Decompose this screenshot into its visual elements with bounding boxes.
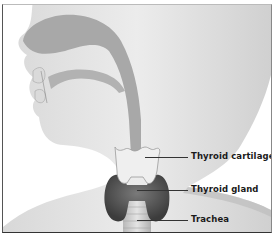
label-thyroid-cartilage: Thyroid cartilage: [191, 151, 272, 161]
label-trachea: Trachea: [191, 214, 229, 224]
leader-thyroid-cartilage: [145, 157, 188, 158]
anatomy-illustration: [3, 5, 271, 232]
label-thyroid-gland: Thyroid gland: [191, 184, 259, 194]
diagram-frame: Thyroid cartilage Thyroid gland Trachea: [2, 4, 272, 233]
leader-trachea: [137, 220, 188, 221]
leader-thyroid-gland: [137, 190, 188, 191]
